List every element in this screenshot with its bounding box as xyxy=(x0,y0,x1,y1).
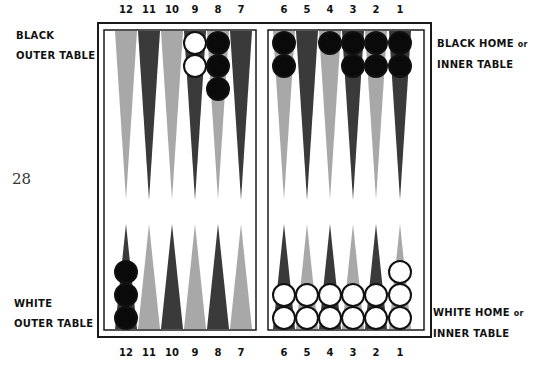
white-checker[interactable] xyxy=(319,284,341,306)
black-checker[interactable] xyxy=(273,55,295,77)
white-checker[interactable] xyxy=(184,55,206,77)
white-checker[interactable] xyxy=(296,307,318,329)
black-checker[interactable] xyxy=(207,32,229,54)
black-checker[interactable] xyxy=(207,55,229,77)
white-checker[interactable] xyxy=(389,284,411,306)
black-checker[interactable] xyxy=(115,261,137,283)
white-checker[interactable] xyxy=(273,307,295,329)
white-checker[interactable] xyxy=(365,307,387,329)
black-checker[interactable] xyxy=(389,55,411,77)
white-checker[interactable] xyxy=(389,261,411,283)
black-checker[interactable] xyxy=(365,32,387,54)
black-checker[interactable] xyxy=(342,55,364,77)
black-checker[interactable] xyxy=(319,32,341,54)
white-checker[interactable] xyxy=(319,307,341,329)
white-checker[interactable] xyxy=(389,307,411,329)
white-checker[interactable] xyxy=(184,32,206,54)
black-checker[interactable] xyxy=(389,32,411,54)
backgammon-board xyxy=(0,0,544,373)
black-checker[interactable] xyxy=(115,284,137,306)
black-checker[interactable] xyxy=(342,32,364,54)
white-checker[interactable] xyxy=(296,284,318,306)
black-checker[interactable] xyxy=(365,55,387,77)
black-checker[interactable] xyxy=(115,307,137,329)
white-checker[interactable] xyxy=(365,284,387,306)
white-checker[interactable] xyxy=(273,284,295,306)
black-checker[interactable] xyxy=(273,32,295,54)
black-checker[interactable] xyxy=(207,78,229,100)
white-checker[interactable] xyxy=(342,284,364,306)
white-checker[interactable] xyxy=(342,307,364,329)
